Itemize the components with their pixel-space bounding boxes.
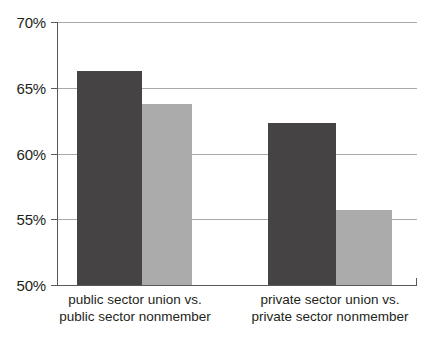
- x-category-label-private-line1: private sector union vs.: [239, 291, 421, 308]
- bar-chart: 70% 65% 60% 55% 50% public sector union …: [0, 0, 430, 340]
- x-axis-line: [57, 285, 417, 286]
- x-axis-end-tick: [416, 278, 417, 286]
- y-tick-label-65: 65%: [0, 81, 46, 96]
- plot-area: [57, 22, 417, 285]
- y-tick-mark-70: [51, 22, 57, 23]
- x-category-label-private: private sector union vs. private sector …: [239, 291, 421, 325]
- y-tick-label-60: 60%: [0, 147, 46, 162]
- x-category-label-private-line2: private sector nonmember: [239, 308, 421, 325]
- y-tick-label-50: 50%: [0, 278, 46, 293]
- y-tick-mark-60: [51, 154, 57, 155]
- y-tick-label-70: 70%: [0, 15, 46, 30]
- x-category-label-public-line1: public sector union vs.: [44, 291, 226, 308]
- bar-private-union: [268, 123, 336, 285]
- gridline-70: [57, 22, 417, 23]
- y-tick-mark-65: [51, 88, 57, 89]
- x-category-label-public-line2: public sector nonmember: [44, 308, 226, 325]
- bar-public-union: [77, 71, 142, 285]
- y-axis-line: [57, 22, 58, 286]
- bar-public-nonmember: [142, 104, 192, 286]
- bar-private-nonmember: [336, 210, 392, 285]
- y-tick-mark-50: [51, 285, 57, 286]
- y-tick-label-55: 55%: [0, 212, 46, 227]
- x-category-label-public: public sector union vs. public sector no…: [44, 291, 226, 325]
- y-tick-mark-55: [51, 219, 57, 220]
